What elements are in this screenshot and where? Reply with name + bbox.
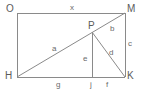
segment-label-d: d [109, 49, 113, 57]
segment-label-e: e [83, 55, 87, 63]
vertex-label-j: j [90, 81, 92, 89]
geometry-diagram: O M H K P x a b c d e g j f [0, 0, 143, 94]
vertex-label-O: O [6, 4, 14, 14]
segment-label-c: c [128, 40, 132, 48]
segment-HM-diagonal-line [17, 13, 125, 77]
segment-label-f: f [106, 81, 108, 89]
vertex-label-H: H [5, 71, 12, 81]
segment-label-a: a [52, 45, 56, 53]
segment-label-x: x [70, 4, 74, 12]
vertex-label-K: K [127, 71, 134, 81]
geometry-figure [0, 0, 143, 94]
segment-label-b: b [110, 25, 114, 33]
vertex-label-P: P [88, 21, 95, 31]
segment-label-g: g [56, 81, 60, 89]
vertex-label-M: M [127, 4, 135, 14]
